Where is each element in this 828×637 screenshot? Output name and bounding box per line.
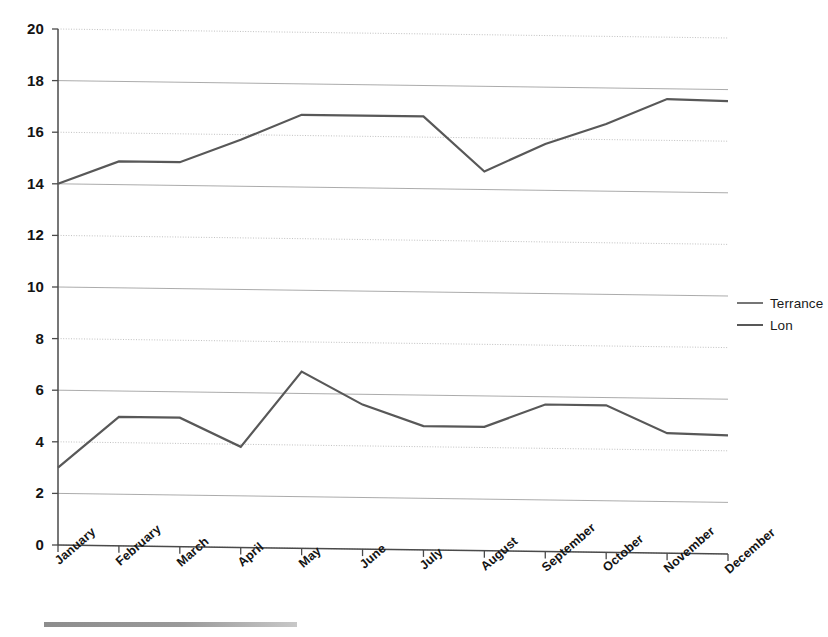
legend-swatch-icon (737, 302, 763, 304)
gridline (58, 235, 728, 244)
y-axis-tick-label: 16 (14, 123, 44, 140)
gridline (58, 184, 728, 193)
gridline (58, 442, 728, 451)
gridline (58, 81, 728, 90)
gridlines (58, 29, 728, 554)
y-axis-tick-label: 8 (14, 330, 44, 347)
y-axis-tick-label: 4 (14, 433, 44, 450)
y-axis-tick-label: 14 (14, 175, 44, 192)
legend-item-lon[interactable]: Lon (737, 314, 828, 336)
gridline (58, 132, 728, 141)
gridline (58, 339, 728, 348)
y-axis-tick-label: 6 (14, 381, 44, 398)
legend-swatch-icon (737, 324, 763, 326)
gridline (58, 29, 728, 38)
y-axis-tick-label: 10 (14, 278, 44, 295)
page-footer-rule (44, 622, 297, 627)
gridline (58, 390, 728, 399)
y-axis-tick-label: 12 (14, 226, 44, 243)
chart-legend: Terrance Lon (737, 292, 828, 336)
legend-label-lon: Lon (770, 318, 793, 333)
y-axis-tick-label: 0 (14, 536, 44, 553)
y-axis-ticks (52, 29, 58, 545)
y-axis-tick-label: 2 (14, 484, 44, 501)
series-line-lon (58, 372, 728, 468)
gridline (58, 493, 728, 502)
legend-item-terrance[interactable]: Terrance (737, 292, 828, 314)
gridline (58, 287, 728, 296)
y-axis-tick-label: 18 (14, 72, 44, 89)
y-axis-tick-label: 20 (14, 20, 44, 37)
legend-label-terrance: Terrance (770, 296, 823, 311)
series-line-terrance (58, 99, 728, 184)
